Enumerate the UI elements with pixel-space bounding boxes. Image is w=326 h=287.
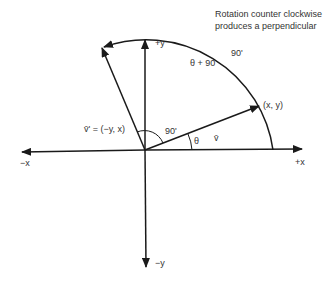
neg-y-axis: [145, 150, 146, 267]
annotation-note: Rotation counter clockwise produces a pe…: [215, 8, 322, 32]
label-neg-y: −y: [155, 258, 165, 269]
theta-arc: [188, 134, 192, 150]
neg-x-axis: [22, 150, 145, 152]
label-arc-angle: 90': [231, 48, 243, 59]
label-theta: θ: [194, 136, 199, 147]
label-vector-v: v̄: [214, 133, 219, 144]
label-vector-perp: v̄' = (−y, x): [84, 124, 125, 135]
label-neg-x: −x: [20, 158, 30, 169]
label-point-xy: (x, y): [263, 100, 283, 111]
label-right-angle: 90': [165, 126, 177, 137]
vector-v: [145, 106, 259, 150]
label-pos-y: +y: [155, 38, 165, 49]
x-axis: [145, 149, 302, 150]
label-pos-x: +x: [295, 157, 305, 168]
annotation-line-1: Rotation counter clockwise: [215, 8, 322, 20]
label-theta-plus-90: θ + 90: [190, 58, 215, 69]
annotation-line-2: produces a perpendicular: [215, 20, 322, 32]
